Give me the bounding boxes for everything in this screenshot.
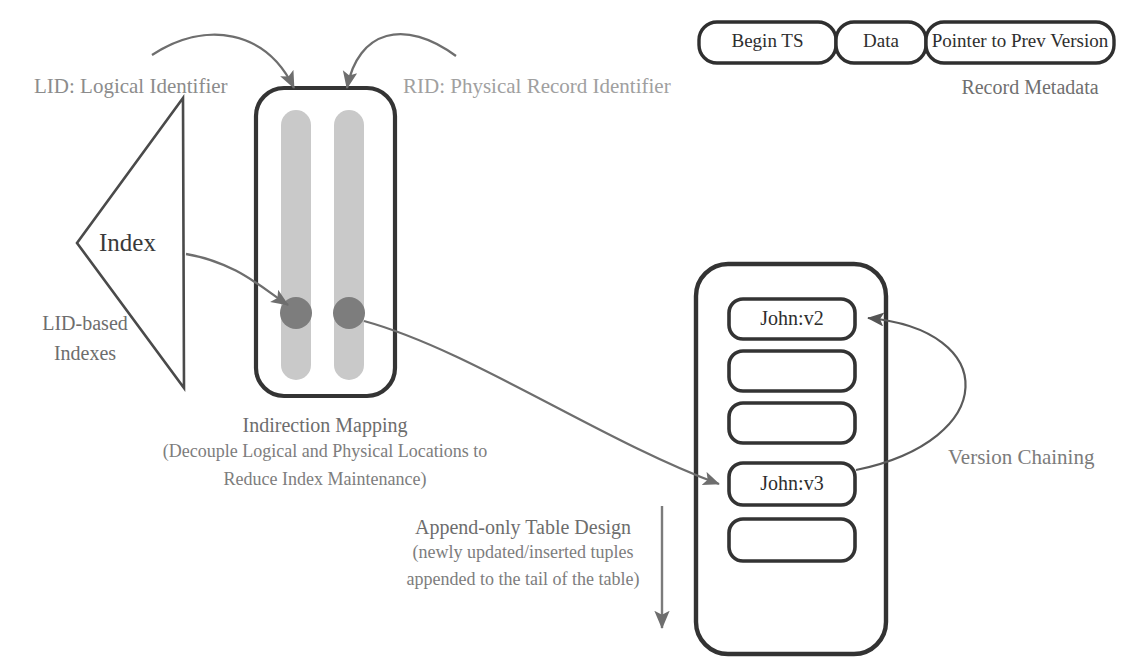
append-only-caption-line3: appended to the tail of the table) (373, 568, 673, 592)
diagram-canvas: Begin TS Data Pointer to Prev Version Re… (0, 0, 1129, 668)
append-only-caption-line1: Append-only Table Design (378, 514, 668, 540)
table-slot-label-0: John:v2 (729, 307, 855, 330)
lid-based-indexes-caption-line1: LID-based (25, 310, 145, 336)
lid-column-bar (281, 110, 311, 380)
index-label: Index (99, 226, 156, 259)
table-slot-shape-2 (729, 403, 855, 443)
table-slot-label-3: John:v3 (729, 472, 855, 495)
append-only-caption-line2: (newly updated/inserted tuples (378, 541, 668, 565)
table-slot-shape-4 (729, 519, 855, 561)
rid-annotation: RID: Physical Record Identifier (403, 73, 671, 101)
version-chaining-label: Version Chaining (948, 444, 1094, 472)
table-slot-shape-1 (729, 351, 855, 391)
indirection-caption-line2: (Decouple Logical and Physical Locations… (145, 440, 505, 464)
lid-annotation: LID: Logical Identifier (34, 73, 228, 101)
record-segment-label-0: Begin TS (699, 30, 836, 52)
indirection-caption-line1: Indirection Mapping (155, 412, 495, 438)
rid-slot-dot (333, 297, 365, 329)
record-segment-label-2: Pointer to Prev Version (926, 30, 1114, 52)
indirection-box-shape (256, 88, 395, 396)
indirection-caption-line3: Reduce Index Maintenance) (145, 468, 505, 492)
rid-column-bar (334, 110, 364, 380)
record-metadata-caption: Record Metadata (930, 74, 1129, 100)
record-segment-label-1: Data (836, 30, 926, 52)
lid-based-indexes-caption-line2: Indexes (25, 340, 145, 366)
